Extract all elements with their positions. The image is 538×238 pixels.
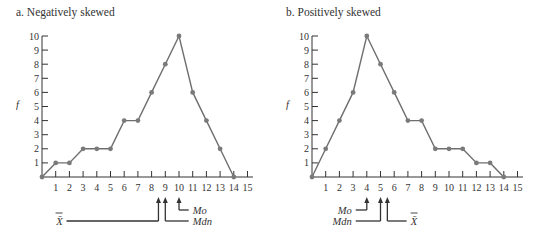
skewed-distributions-figure: a. Negatively skewedf1234567891012345678…: [0, 0, 538, 238]
left-data-point: [136, 118, 141, 123]
left-x-tick-label: 2: [67, 182, 72, 193]
left-data-point: [67, 161, 72, 166]
right-data-point: [323, 146, 328, 151]
right-y-tick-label: 4: [304, 115, 309, 126]
right-y-axis-label: f: [286, 99, 291, 110]
left-x-tick-label: 15: [243, 182, 253, 193]
left-x-tick-label: 8: [149, 182, 154, 193]
left-x-tick-label: 3: [81, 182, 86, 193]
left-data-point: [81, 146, 86, 151]
left-y-tick-label: 10: [29, 31, 39, 42]
left-data-point: [218, 146, 223, 151]
left-y-tick-label: 7: [34, 73, 39, 84]
right-x-tick-label: 4: [364, 182, 369, 193]
left-x-tick-label: 6: [122, 182, 127, 193]
right-y-tick-label: 6: [304, 87, 309, 98]
right-y-tick-label: 3: [304, 129, 309, 140]
right-data-point: [378, 62, 383, 67]
right-data-point: [310, 175, 315, 180]
right-x-tick-label: 7: [405, 182, 410, 193]
left-x-tick-label: 14: [229, 182, 239, 193]
left-data-point: [204, 118, 209, 123]
right-x-tick-label: 12: [471, 182, 481, 193]
annotation-label: Mo: [192, 205, 207, 216]
right-x-tick-label: 10: [444, 182, 454, 193]
right-x-tick-label: 1: [323, 182, 328, 193]
right-y-tick-label: 1: [304, 157, 309, 168]
left-data-point: [53, 161, 58, 166]
left-x-tick-label: 13: [215, 182, 225, 193]
right-data-point: [364, 34, 369, 39]
left-data-point: [231, 175, 236, 180]
left-x-tick-label: 7: [135, 182, 140, 193]
right-y-tick-label: 8: [304, 59, 309, 70]
right-data-point: [351, 90, 356, 95]
left-x-tick-label: 4: [94, 182, 99, 193]
left-x-tick-label: 5: [108, 182, 113, 193]
right-data-point: [488, 161, 493, 166]
left-y-axis-label: f: [16, 99, 21, 110]
left-y-tick-label: 5: [34, 101, 39, 112]
annotation-label: X̄: [410, 216, 418, 227]
left-y-tick-label: 1: [34, 157, 39, 168]
left-x-tick-label: 10: [174, 182, 184, 193]
left-data-point: [108, 146, 113, 151]
left-x-tick-label: 12: [201, 182, 211, 193]
left-y-tick-label: 2: [34, 143, 39, 154]
right-x-tick-label: 9: [433, 182, 438, 193]
right-data-point: [501, 175, 506, 180]
left-data-point: [163, 62, 168, 67]
right-x-tick-label: 8: [419, 182, 424, 193]
left-panel-title: a. Negatively skewed: [16, 6, 115, 19]
right-panel-title: b. Positively skewed: [286, 6, 381, 19]
left-x-tick-label: 11: [188, 182, 198, 193]
left-x-tick-label: 1: [53, 182, 58, 193]
left-data-point: [40, 175, 45, 180]
right-x-tick-label: 6: [392, 182, 397, 193]
right-data-point: [419, 118, 424, 123]
right-data-point: [433, 146, 438, 151]
right-y-tick-label: 9: [304, 45, 309, 56]
left-data-point: [149, 90, 154, 95]
right-x-tick-label: 2: [337, 182, 342, 193]
right-data-point: [392, 90, 397, 95]
right-data-point: [447, 146, 452, 151]
left-y-tick-label: 8: [34, 59, 39, 70]
right-x-tick-label: 11: [458, 182, 468, 193]
annotation-label: X̄: [55, 216, 63, 227]
right-data-point: [474, 161, 479, 166]
right-y-tick-label: 7: [304, 73, 309, 84]
right-x-tick-label: 13: [485, 182, 495, 193]
right-x-tick-label: 14: [499, 182, 509, 193]
right-x-tick-label: 3: [351, 182, 356, 193]
left-y-tick-label: 6: [34, 87, 39, 98]
right-x-tick-label: 15: [513, 182, 523, 193]
annotation-label: Mdn: [331, 216, 351, 227]
left-x-tick-label: 9: [163, 182, 168, 193]
right-frequency-polygon: [312, 36, 504, 177]
annotation-label: Mo: [337, 205, 352, 216]
left-data-point: [190, 90, 195, 95]
left-data-point: [94, 146, 99, 151]
left-y-tick-label: 9: [34, 45, 39, 56]
left-y-tick-label: 4: [34, 115, 39, 126]
annotation-label: Mdn: [192, 216, 212, 227]
left-data-point: [122, 118, 127, 123]
right-data-point: [406, 118, 411, 123]
right-data-point: [337, 118, 342, 123]
right-y-tick-label: 10: [299, 31, 309, 42]
left-y-tick-label: 3: [34, 129, 39, 140]
right-y-tick-label: 5: [304, 101, 309, 112]
right-y-tick-label: 2: [304, 143, 309, 154]
left-data-point: [177, 34, 182, 39]
right-x-tick-label: 5: [378, 182, 383, 193]
left-frequency-polygon: [42, 36, 234, 177]
right-data-point: [460, 146, 465, 151]
